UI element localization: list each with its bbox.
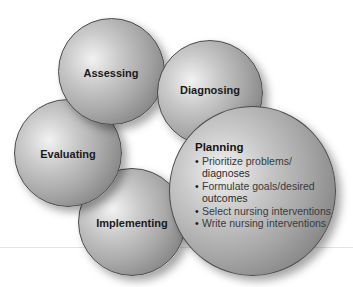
implementing-label: Implementing (96, 217, 168, 229)
assessing-label: Assessing (83, 67, 138, 79)
planning-bullet-formulate: Formulate goals/desired (195, 180, 331, 193)
planning-bullet-write: Write nursing interventions (195, 217, 331, 230)
planning-bullet-formulate-cont: outcomes (195, 192, 331, 205)
evaluating-label: Evaluating (40, 148, 96, 160)
planning-bullet-prioritize-cont: diagnoses (195, 167, 331, 180)
planning-title: Planning (195, 141, 331, 154)
planning-bullet-prioritize: Prioritize problems/ (195, 155, 331, 168)
diagnosing-label: Diagnosing (180, 84, 240, 96)
planning-details: Planning Prioritize problems/ diagnoses … (195, 141, 331, 230)
planning-bullet-select: Select nursing interventions (195, 205, 331, 218)
